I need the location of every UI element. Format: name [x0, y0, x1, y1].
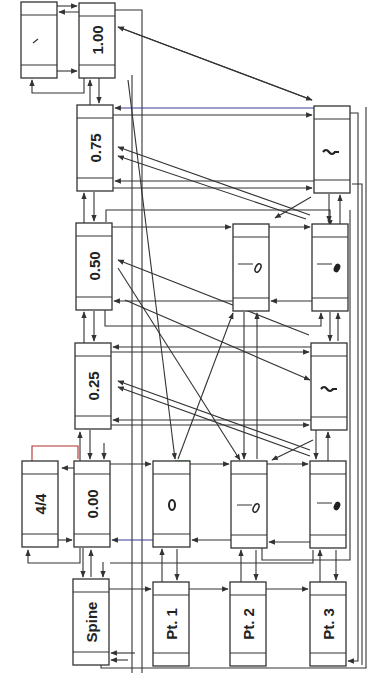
time-node-0-25[interactable]: 0.25 [75, 343, 111, 429]
quarter-rest-node[interactable] [314, 106, 350, 193]
time-node-label: 1.00 [89, 25, 106, 54]
spine-node[interactable]: Spine [73, 579, 109, 665]
time-node-0-50[interactable]: 0.50 [76, 223, 112, 310]
time-node-0-75[interactable]: 0.75 [77, 105, 113, 191]
time-node-label: 0.75 [87, 133, 104, 162]
part-label: Pt. 2 [240, 608, 257, 640]
half-note-node[interactable] [231, 461, 267, 548]
part-node-2[interactable]: Pt. 2 [230, 582, 266, 666]
meter-label: 4/4 [32, 493, 49, 515]
spine-label: Spine [83, 602, 100, 643]
quarter-note-node[interactable] [310, 461, 346, 548]
whole-note-node[interactable] [153, 461, 190, 547]
part-node-3[interactable]: Pt. 3 [310, 582, 346, 666]
time-node-label: 0.00 [84, 489, 101, 518]
time-node-1-00[interactable]: 1.00 [79, 3, 115, 78]
time-node-label: 0.25 [85, 371, 102, 400]
part-label: Pt. 3 [320, 608, 337, 640]
music-structure-diagram: 1.00 0.75 0.50 0.25 0.00 4/4 Spi [0, 0, 372, 673]
time-node-label: 0.50 [86, 251, 103, 280]
half-note-node[interactable] [233, 224, 269, 311]
meter-node[interactable]: 4/4 [22, 461, 58, 547]
barline-node[interactable] [21, 2, 57, 78]
quarter-rest-node[interactable] [311, 343, 347, 430]
time-node-0-00[interactable]: 0.00 [74, 461, 110, 547]
part-node-1[interactable]: Pt. 1 [153, 582, 189, 666]
part-label: Pt. 1 [163, 608, 180, 640]
quarter-note-node[interactable] [312, 224, 348, 311]
